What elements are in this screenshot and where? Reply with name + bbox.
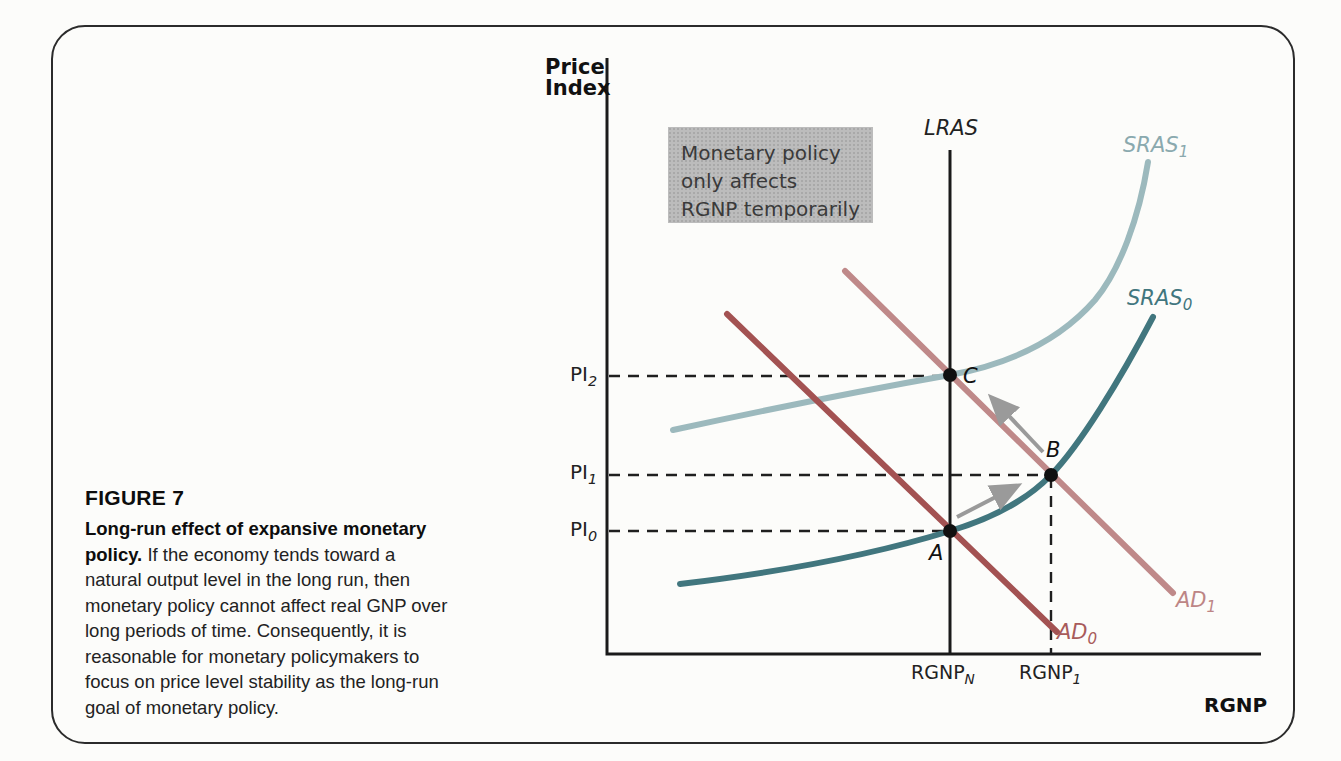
ad0-label-subscript: 0: [1088, 630, 1098, 648]
point-a-label: A: [929, 541, 943, 565]
figure-caption: Long-run effect of expansive monetary po…: [85, 516, 453, 720]
sras1-label-subscript: 1: [1179, 143, 1189, 161]
x-axis-title: RGNP: [1204, 693, 1267, 717]
annotation-line-3: RGNP temporarily: [681, 195, 873, 223]
pi2-subscript: 2: [588, 373, 597, 389]
y-tick-pi2: PI2: [570, 362, 597, 386]
point-b-dot: [1044, 468, 1058, 482]
ad1-curve-label: AD1: [1176, 588, 1216, 612]
rgnp-1-subscript: 1: [1073, 671, 1082, 687]
y-axis-title: Price Index: [545, 57, 611, 99]
ad0-curve-label: AD0: [1057, 620, 1097, 644]
point-c-dot: [943, 368, 957, 382]
pi0-base: PI: [570, 517, 588, 541]
lras-curve-label: LRAS: [924, 116, 978, 140]
pi1-subscript: 1: [588, 471, 597, 487]
y-tick-pi0: PI0: [570, 517, 597, 541]
annotation-line-2: only affects: [681, 167, 873, 195]
point-c-label: C: [963, 364, 978, 388]
sras0-label-subscript: 0: [1183, 296, 1193, 314]
pi2-base: PI: [570, 362, 588, 386]
point-b-label: B: [1046, 438, 1060, 462]
y-tick-pi1: PI1: [570, 460, 597, 484]
annotation-box: Monetary policy only affects RGNP tempor…: [668, 127, 873, 223]
rgnp-1-base: RGNP: [1019, 661, 1073, 683]
ad0-label-base: AD: [1057, 620, 1088, 644]
point-a-dot: [943, 524, 957, 538]
textbook-figure-page: Price Index RGNP LRAS SRAS1 SRAS0 AD0 AD…: [0, 0, 1341, 761]
sras0-label-base: SRAS: [1127, 286, 1183, 310]
sras0-curve: [680, 317, 1153, 584]
pi1-base: PI: [570, 460, 588, 484]
caption-block: FIGURE 7 Long-run effect of expansive mo…: [85, 486, 453, 720]
rgnp-n-base: RGNP: [911, 661, 965, 683]
x-tick-rgnp-n: RGNPN: [911, 661, 975, 683]
sras1-label-base: SRAS: [1123, 133, 1179, 157]
sras1-curve-label: SRAS1: [1123, 133, 1188, 157]
arrow-a-to-b: [957, 486, 1017, 517]
pi0-subscript: 0: [588, 528, 597, 544]
x-tick-rgnp-1: RGNP1: [1019, 661, 1081, 683]
caption-body-text: If the economy tends toward a natural ou…: [85, 544, 447, 718]
ad1-label-subscript: 1: [1207, 598, 1217, 616]
rgnp-n-subscript: N: [965, 671, 975, 687]
sras0-curve-label: SRAS0: [1127, 286, 1192, 310]
y-axis-title-line1: Price: [545, 57, 611, 78]
figure-number: FIGURE 7: [85, 486, 453, 510]
ad1-label-base: AD: [1176, 588, 1207, 612]
y-axis-title-line2: Index: [545, 78, 611, 99]
annotation-line-1: Monetary policy: [681, 139, 873, 167]
